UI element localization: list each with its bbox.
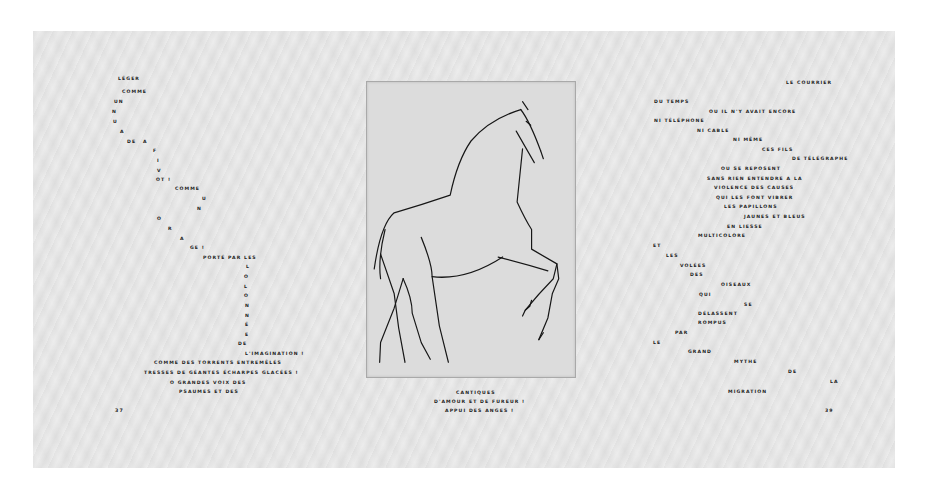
poem-word: PORTÉ PAR LES bbox=[203, 255, 257, 261]
poem-word: LE COURRIER bbox=[786, 80, 832, 86]
poem-word: PSAUMES ET DES bbox=[179, 389, 239, 395]
poem-word: É bbox=[245, 322, 249, 328]
poem-word: A bbox=[143, 139, 148, 145]
poem-word: MYTHE bbox=[734, 359, 758, 365]
poem-word: VOLÉES bbox=[680, 263, 707, 269]
poem-word: LÉGER bbox=[118, 76, 140, 82]
poem-word: O GRANDES VOIX DES bbox=[170, 380, 246, 386]
poem-word: COMME DES TORRENTS ENTREMÊLÉS bbox=[154, 360, 282, 366]
poem-word: N bbox=[112, 109, 117, 115]
poem-word: DE bbox=[788, 369, 797, 375]
poem-word: PAR bbox=[675, 330, 688, 336]
poem-word: U bbox=[113, 119, 118, 125]
poem-word: F bbox=[153, 148, 157, 154]
poem-word: L bbox=[244, 284, 248, 290]
poem-word: O bbox=[244, 293, 249, 299]
poem-word: DU TEMPS bbox=[654, 99, 689, 105]
poem-word: TRESSES DE GÉANTES ÉCHARPES GLACÉES ! bbox=[144, 370, 299, 376]
poem-word: QUI LES FONT VIBRER bbox=[716, 195, 793, 201]
poem-word: ET bbox=[653, 243, 661, 249]
poem-word: V bbox=[157, 168, 162, 174]
poem-word: LE bbox=[653, 340, 661, 346]
poem-word: GRAND bbox=[688, 349, 712, 355]
poem-word: QUI bbox=[699, 292, 712, 298]
page-number: 37 bbox=[115, 408, 124, 414]
poem-word: MULTICOLORE bbox=[698, 233, 746, 239]
horse-drawing-icon bbox=[367, 82, 575, 377]
poem-word: U bbox=[202, 196, 207, 202]
poem-word: N bbox=[245, 313, 250, 319]
poem-word: MIGRATION bbox=[728, 389, 767, 395]
poem-word: JAUNES ET BLEUS bbox=[744, 214, 806, 220]
poem-word: CES FILS bbox=[762, 147, 793, 153]
poem-word: SE bbox=[744, 302, 753, 308]
poem-word: N bbox=[197, 206, 202, 212]
poem-word: L bbox=[246, 264, 250, 270]
poem-word: DES bbox=[690, 272, 704, 278]
poem-word: O bbox=[244, 274, 249, 280]
poem-word: VIOLENCE DES CAUSES bbox=[714, 185, 794, 191]
poem-word: OT ! bbox=[156, 177, 171, 183]
poem-word: EN LIESSE bbox=[727, 224, 763, 230]
poem-word: COMME bbox=[122, 89, 147, 95]
poem-word: UN bbox=[114, 99, 124, 105]
poem-word: LES PAPILLONS bbox=[724, 204, 778, 210]
poem-word: 39 bbox=[825, 408, 834, 414]
poem-word: R bbox=[168, 226, 173, 232]
poem-word: SANS RIEN ENTENDRE A LA bbox=[707, 176, 803, 182]
caption-line: D'AMOUR ET DE FUREUR ! bbox=[434, 399, 525, 405]
poem-word: I bbox=[157, 158, 160, 164]
poem-word: E bbox=[245, 332, 249, 338]
caption-line: APPUI DES ANGES ! bbox=[445, 408, 514, 414]
poem-word: NI MÊME bbox=[733, 137, 763, 143]
poem-word: ROMPUS bbox=[698, 320, 727, 326]
horse-etching-plate bbox=[366, 81, 576, 378]
poem-word: A bbox=[120, 129, 125, 135]
poem-word: LES bbox=[666, 253, 679, 259]
poem-word: N bbox=[245, 303, 250, 309]
poem-word: COMME bbox=[175, 186, 200, 192]
poem-word: A bbox=[180, 236, 185, 242]
caption-line: CANTIQUES bbox=[456, 390, 496, 396]
poem-word: DE TÉLÉGRAPHE bbox=[792, 156, 848, 162]
poem-word: DE bbox=[127, 139, 136, 145]
poem-word: LA bbox=[830, 379, 839, 385]
poem-word: OISEAUX bbox=[721, 282, 751, 288]
poem-word: O bbox=[157, 216, 162, 222]
poem-word: GE ! bbox=[190, 245, 205, 251]
poem-word: NI TÉLÉPHONE bbox=[654, 118, 705, 124]
poem-word: DE bbox=[238, 341, 247, 347]
poem-word: OU SE REPOSENT bbox=[721, 166, 781, 172]
poem-word: NI CABLE bbox=[697, 128, 729, 134]
open-book-spread: LÉGERCOMMEUNNUADEAFIVOT !COMMEUNORAGE !P… bbox=[33, 31, 895, 468]
poem-word: DÉLASSENT bbox=[698, 311, 738, 317]
poem-word: OU IL N'Y AVAIT ENCORE bbox=[709, 109, 796, 115]
poem-word: L'IMAGINATION ! bbox=[245, 351, 304, 357]
